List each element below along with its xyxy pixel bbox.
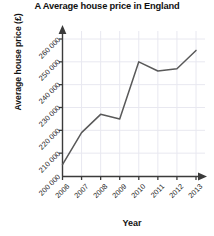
x-axis-arrow-icon xyxy=(198,173,207,181)
y-axis-arrow-icon xyxy=(59,25,67,34)
axes xyxy=(59,25,207,180)
gridlines xyxy=(63,31,206,176)
chart-figure: A Average house price in England Average… xyxy=(0,0,214,236)
